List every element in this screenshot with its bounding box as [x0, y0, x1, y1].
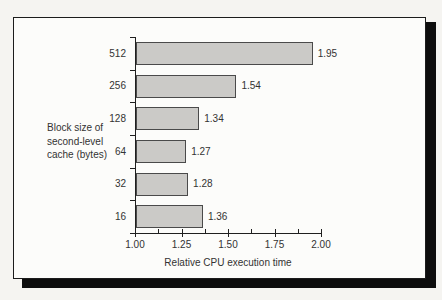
figure-drop-shadow-right [426, 22, 436, 288]
category-label: 32 [85, 168, 126, 201]
scanned-figure-page: { "figure": { "ylabel_lines": ["Block si… [0, 0, 442, 300]
bar-value-label: 1.54 [241, 70, 260, 103]
x-axis-tick [228, 229, 229, 237]
x-axis-tick-label: 1.75 [259, 239, 291, 250]
y-axis-tick [130, 37, 135, 38]
category-label: 16 [85, 200, 126, 233]
figure-box: Block size of second-level cache (bytes)… [13, 17, 426, 279]
x-axis-tick [275, 229, 276, 237]
bar [136, 140, 186, 163]
bar [136, 75, 236, 98]
x-axis-tick [182, 229, 183, 237]
x-axis-minor-tick [158, 229, 159, 233]
bar [136, 205, 203, 228]
x-axis-tick-label: 1.50 [212, 239, 244, 250]
plot-area: 1.001.251.501.752.005121.952561.541281.3… [14, 18, 425, 278]
bar [136, 42, 313, 65]
y-axis-tick [130, 70, 135, 71]
figure-drop-shadow-bottom [22, 279, 436, 288]
y-axis-tick [130, 102, 135, 103]
y-axis-tick [130, 168, 135, 169]
x-axis-title: Relative CPU execution time [78, 257, 378, 268]
bar-value-label: 1.34 [204, 102, 223, 135]
y-axis-tick [130, 135, 135, 136]
category-label: 64 [85, 135, 126, 168]
x-axis-tick [321, 229, 322, 237]
bar-value-label: 1.28 [193, 168, 212, 201]
bar [136, 107, 199, 130]
x-axis-tick-label: 1.25 [166, 239, 198, 250]
category-label: 256 [85, 70, 126, 103]
y-axis-tick [130, 200, 135, 201]
x-axis-tick-label: 1.00 [119, 239, 151, 250]
bar-value-label: 1.36 [208, 200, 227, 233]
bar [136, 173, 188, 196]
x-axis-minor-tick [298, 229, 299, 233]
x-axis-tick [135, 229, 136, 237]
x-axis-minor-tick [251, 229, 252, 233]
bar-value-label: 1.95 [318, 37, 337, 70]
x-axis-minor-tick [205, 229, 206, 233]
category-label: 128 [85, 102, 126, 135]
bar-value-label: 1.27 [191, 135, 210, 168]
x-axis-tick-label: 2.00 [305, 239, 337, 250]
category-label: 512 [85, 37, 126, 70]
